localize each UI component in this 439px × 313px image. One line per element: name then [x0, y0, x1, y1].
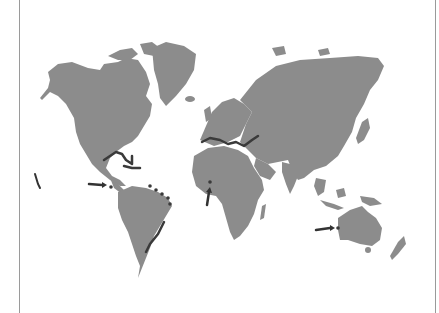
madagascar	[260, 204, 266, 220]
new-zealand	[390, 236, 406, 260]
arrow-eastern-pacific	[89, 182, 107, 188]
southeast-asia	[314, 178, 326, 196]
caribbean-highlight	[124, 166, 140, 168]
india	[282, 162, 298, 194]
indonesia	[320, 200, 344, 210]
south-america	[118, 186, 172, 278]
arrow-western-australia	[316, 225, 335, 231]
new-guinea	[360, 196, 382, 206]
japan	[356, 118, 370, 144]
hawaii-mark	[35, 174, 40, 188]
africa	[192, 146, 264, 240]
arctic-archipelago	[108, 48, 138, 60]
panama-island-dot	[109, 185, 113, 189]
guianas-coast-dot	[148, 184, 152, 188]
australia	[338, 206, 382, 246]
world-map	[0, 0, 439, 313]
sw-australia-dot	[336, 226, 340, 230]
gulf-of-guinea-dot	[208, 180, 212, 184]
